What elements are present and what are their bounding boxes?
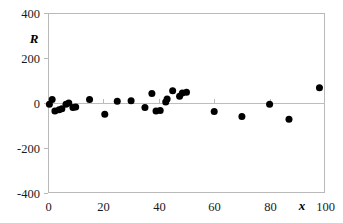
y-tick-label: 200 <box>21 52 40 66</box>
y-tick-label: 400 <box>21 7 40 21</box>
data-point <box>316 84 323 91</box>
data-point <box>169 87 176 94</box>
x-tick-label: 20 <box>97 200 110 214</box>
y-tick-label: -400 <box>17 187 40 201</box>
x-tick-label: 100 <box>316 200 335 214</box>
data-point <box>49 96 56 103</box>
data-point <box>148 90 155 97</box>
x-tick-label: 60 <box>208 200 221 214</box>
data-point <box>157 107 164 114</box>
x-axis-title: x <box>298 198 306 213</box>
x-tick-label: 0 <box>45 200 51 214</box>
data-point <box>285 116 292 123</box>
data-point <box>211 108 218 115</box>
data-point <box>164 95 171 102</box>
x-tick-label: 80 <box>264 200 277 214</box>
plot-canvas: -400-2000200400 020406080100 R x <box>0 0 343 223</box>
data-point <box>86 96 93 103</box>
x-tick-label: 40 <box>153 200 166 214</box>
data-point <box>72 104 79 111</box>
y-tick-label: 0 <box>34 97 40 111</box>
data-point <box>238 113 245 120</box>
chart-background <box>0 0 343 223</box>
data-point <box>114 98 121 105</box>
data-point <box>266 101 273 108</box>
y-tick-label: -200 <box>17 142 40 156</box>
data-point <box>141 104 148 111</box>
data-point <box>128 97 135 104</box>
y-axis-title: R <box>29 31 39 46</box>
data-point <box>101 111 108 118</box>
data-point <box>183 89 190 96</box>
scatter-chart: -400-2000200400 020406080100 R x <box>0 0 343 223</box>
